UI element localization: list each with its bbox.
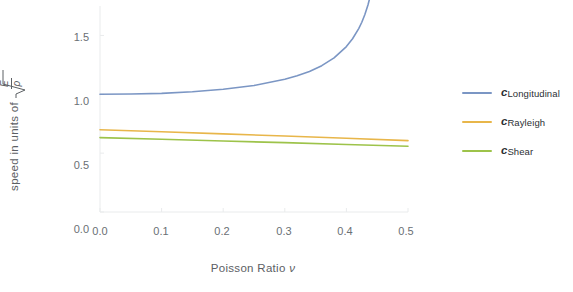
series-line-c-longitudinal <box>100 0 371 94</box>
x-axis-title-symbol: ν <box>289 262 295 274</box>
legend-label-sub-2: Shear <box>507 146 533 157</box>
chart-figure: speed in units of E ρ 0.0 0.5 1.0 1.5 0.… <box>0 0 573 292</box>
legend-label-sub-1: Rayleigh <box>507 117 545 128</box>
legend-swatch-rayleigh <box>462 121 492 123</box>
x-axis-title: Poisson Ratio ν <box>100 262 406 274</box>
legend-swatch-shear <box>462 150 492 152</box>
axis-ticks <box>100 35 408 212</box>
x-axis-title-text: Poisson Ratio <box>211 262 286 274</box>
legend-item-longitudinal[interactable]: cLongitudinal <box>462 78 573 107</box>
legend-label-rayleigh: cRayleigh <box>501 115 545 128</box>
series-lines <box>100 0 408 146</box>
legend-swatch-longitudinal <box>462 92 492 94</box>
legend-label-longitudinal: cLongitudinal <box>501 86 560 99</box>
chart-legend: cLongitudinal cRayleigh cShear <box>462 78 573 165</box>
legend-label-sub-0: Longitudinal <box>507 88 559 99</box>
legend-label-shear: cShear <box>501 144 533 157</box>
legend-item-shear[interactable]: cShear <box>462 136 573 165</box>
legend-item-rayleigh[interactable]: cRayleigh <box>462 107 573 136</box>
axis-lines <box>100 6 408 212</box>
